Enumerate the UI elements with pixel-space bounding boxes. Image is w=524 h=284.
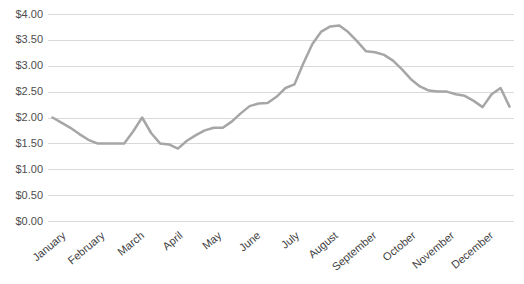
y-axis-tick-label: $2.00 [0,111,43,124]
y-axis-tick-label: $4.00 [0,8,43,21]
y-axis-tick-label: $3.50 [0,33,43,46]
line-chart: $0.00$0.50$1.00$1.50$2.00$2.50$3.00$3.50… [0,0,524,284]
y-axis-tick-label: $3.00 [0,59,43,72]
y-axis-tick-label: $1.50 [0,137,43,150]
data-series-line [53,25,510,148]
y-axis-tick-label: $0.50 [0,189,43,202]
y-axis-tick-label: $1.00 [0,163,43,176]
y-axis-tick-label: $0.00 [0,215,43,228]
y-axis-tick-label: $2.50 [0,85,43,98]
